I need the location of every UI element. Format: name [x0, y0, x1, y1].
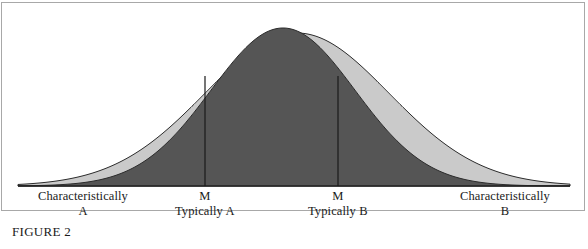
axis-label-left-extreme-line1: Characteristically: [38, 189, 128, 204]
axis-label-marker-a-line1: M: [175, 189, 235, 204]
axis-label-marker-a-line2: Typically A: [175, 204, 235, 219]
overlapping-normal-curves-chart: [0, 0, 588, 215]
figure-caption: FIGURE 2: [12, 224, 71, 240]
axis-label-right-extreme-line2: B: [460, 204, 550, 219]
axis-label-right-extreme: Characteristically B: [460, 189, 550, 218]
axis-label-left-extreme: Characteristically A: [38, 189, 128, 218]
axis-label-left-extreme-line2: A: [38, 204, 128, 219]
axis-label-marker-b-line2: Typically B: [308, 204, 368, 219]
axis-label-right-extreme-line1: Characteristically: [460, 189, 550, 204]
axis-label-marker-b-line1: M: [308, 189, 368, 204]
figure-page: Characteristically A M Typically A M Typ…: [0, 0, 588, 249]
curve-a-area: [18, 28, 570, 186]
axis-label-marker-a: M Typically A: [175, 189, 235, 218]
axis-label-marker-b: M Typically B: [308, 189, 368, 218]
